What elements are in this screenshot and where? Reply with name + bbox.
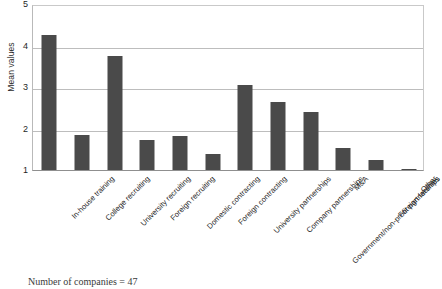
bar bbox=[172, 136, 187, 170]
chart-caption: Number of companies = 47 bbox=[28, 276, 138, 287]
y-axis-tick-labels: 12345 bbox=[8, 0, 28, 180]
bar-slot bbox=[294, 6, 327, 170]
y-tick-label: 5 bbox=[12, 0, 28, 9]
bar-slot bbox=[196, 6, 229, 170]
bar bbox=[42, 35, 57, 170]
plot-area bbox=[32, 5, 424, 171]
bar bbox=[74, 135, 89, 170]
bar-slot bbox=[66, 6, 99, 170]
bar bbox=[336, 148, 351, 170]
bar bbox=[140, 140, 155, 170]
bar-slot bbox=[327, 6, 360, 170]
bar-slot bbox=[392, 6, 425, 170]
y-tick-label: 1 bbox=[12, 166, 28, 175]
bars-series bbox=[33, 6, 423, 170]
bar bbox=[238, 85, 253, 170]
bar bbox=[401, 169, 416, 170]
x-axis-category-labels: In-house trainingCollege recruitingUnive… bbox=[32, 171, 424, 271]
y-tick-label: 2 bbox=[12, 125, 28, 134]
bar-slot bbox=[229, 6, 262, 170]
bar bbox=[303, 112, 318, 170]
bar bbox=[270, 102, 285, 170]
y-tick-label: 3 bbox=[12, 83, 28, 92]
bar bbox=[205, 154, 220, 170]
bar-slot bbox=[164, 6, 197, 170]
bar-slot bbox=[131, 6, 164, 170]
bar-slot bbox=[360, 6, 393, 170]
bar bbox=[107, 56, 122, 170]
bar-slot bbox=[262, 6, 295, 170]
bar-slot bbox=[98, 6, 131, 170]
y-tick-label: 4 bbox=[12, 42, 28, 51]
bar bbox=[368, 160, 383, 170]
bar-slot bbox=[33, 6, 66, 170]
